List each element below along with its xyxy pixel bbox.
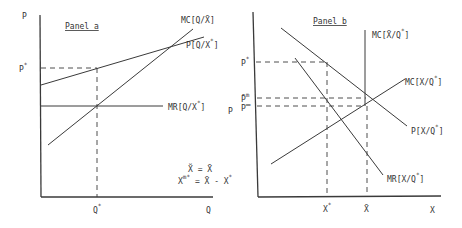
panel-b-x-bar-label: X̄ (364, 204, 369, 214)
panel-a-equation-1: X̆ = X̄ (188, 163, 212, 174)
panel-b-mc-curve (271, 79, 405, 164)
panel-b-title: Panel b (313, 17, 347, 26)
panel-b-p-dbar-label: P̿ (241, 104, 251, 113)
panel-b-mr-curve (295, 58, 383, 175)
panel-a: Panel a P Q P* Q* MC[Q/X̄] P[Q/X*] MR[Q/… (19, 12, 233, 215)
panel-b-y-axis (253, 12, 258, 197)
panel-a-q-star-label: Q* (93, 202, 102, 215)
panel-b-x-axis (258, 196, 441, 197)
panel-a-equation-2: Xm* = X̄ - X* (178, 173, 233, 186)
panel-a-y-axis-label: P (22, 12, 27, 21)
panel-b-x-star-label: X* (323, 201, 332, 214)
economics-diagram: Panel a P Q P* Q* MC[Q/X̄] P[Q/X*] MR[Q/… (0, 0, 462, 228)
panel-b-mr-label: MR[X/Q*] (387, 171, 424, 184)
panel-a-mc-curve (48, 29, 193, 145)
panel-b-mc-label: MC[X/Q*] (405, 74, 442, 87)
panel-a-mr-label: MR[Q/X*] (168, 99, 205, 112)
panel-a-price-curve (41, 37, 204, 85)
panel-a-y-axis (40, 15, 41, 197)
panel-b-price-label: P[X/Q*] (411, 123, 444, 136)
panel-b-mc-vertical-label: MC[X̄/Q*] (372, 27, 409, 40)
panel-a-p-star-label: P* (19, 61, 28, 74)
panel-a-x-axis-label: Q (206, 206, 211, 215)
panel-b-p-bar-m-label: P̄m (241, 91, 250, 104)
panel-a-mc-label: MC[Q/X̄] (181, 15, 215, 25)
panel-a-price-label: P[Q/X*] (186, 37, 219, 50)
panel-b: Panel b P X P* P̄m P̿ X* X̄ MC[X̄/Q*] MC… (228, 12, 444, 215)
panel-b-p-star-label: P* (241, 55, 250, 68)
panel-b-price-curve (281, 28, 407, 126)
panel-a-title: Panel a (65, 22, 99, 31)
panel-b-x-axis-label: X (430, 206, 435, 215)
panel-b-y-axis-label: P (228, 107, 233, 116)
